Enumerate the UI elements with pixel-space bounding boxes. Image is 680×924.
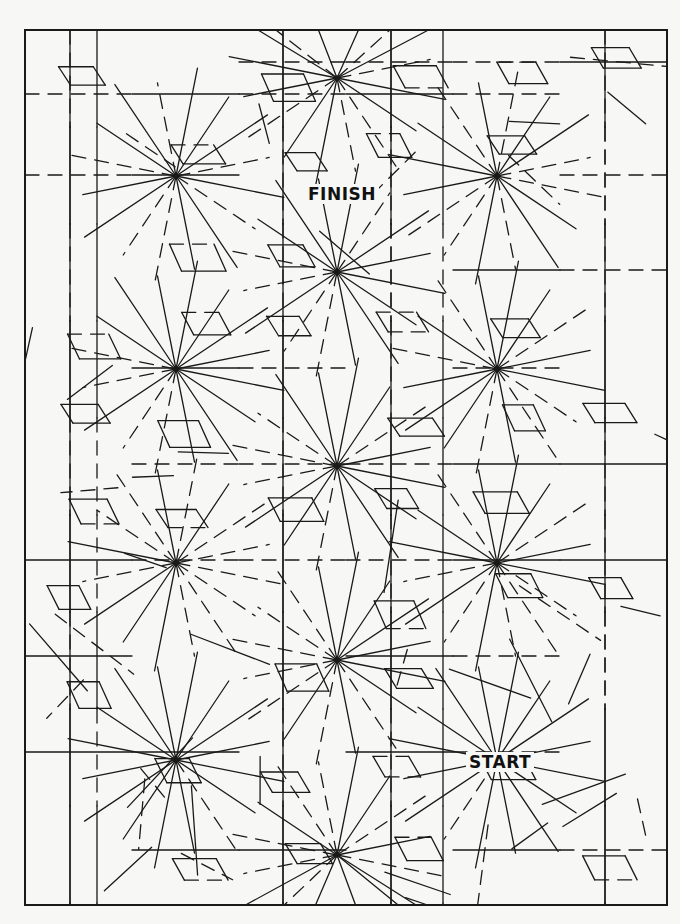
start-label: START: [466, 752, 534, 772]
maze-drawing: [0, 0, 680, 924]
finish-label: FINISH: [305, 184, 379, 204]
